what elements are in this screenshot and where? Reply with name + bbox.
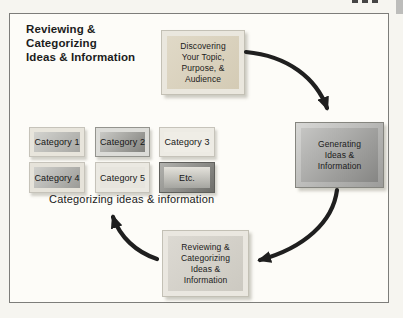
category-label: Category 3 — [164, 132, 210, 152]
figure-title: Reviewing & Categorizing Ideas & Informa… — [26, 22, 135, 64]
page-edge-tab — [396, 0, 403, 14]
figure-title-line: Categorizing — [26, 36, 135, 50]
category-label: Etc. — [164, 167, 210, 188]
category-label: Category 4 — [34, 167, 80, 188]
cropped-page-number — [352, 0, 380, 3]
node-generating-ideas: Generating Ideas & Information — [295, 122, 384, 188]
page-background: { "figure": { "title_lines": ["Reviewing… — [0, 0, 403, 318]
node-reviewing-categorizing: Reviewing & Categorizing Ideas & Informa… — [162, 230, 249, 297]
category-label: Category 2 — [100, 132, 145, 152]
category-box-etc: Etc. — [159, 162, 215, 193]
cropped-page-number-mark — [352, 0, 358, 3]
categories-caption: Categorizing ideas & information — [49, 193, 229, 205]
figure-box: Reviewing & Categorizing Ideas & Informa… — [9, 13, 389, 303]
figure-title-line: Reviewing & — [26, 22, 135, 36]
node-generating-label: Generating Ideas & Information — [301, 128, 378, 182]
figure-title-line: Ideas & Information — [26, 50, 135, 64]
node-reviewing-label: Reviewing & Categorizing Ideas & Informa… — [168, 236, 243, 291]
category-label: Category 5 — [100, 167, 145, 188]
category-box-5: Category 5 — [95, 162, 150, 193]
category-box-1: Category 1 — [29, 127, 85, 157]
category-box-3: Category 3 — [159, 127, 215, 157]
category-box-2: Category 2 — [95, 127, 150, 157]
category-box-4: Category 4 — [29, 162, 85, 193]
node-discovering-label: Discovering Your Topic, Purpose, & Audie… — [167, 36, 239, 89]
node-discovering-topic: Discovering Your Topic, Purpose, & Audie… — [161, 30, 245, 95]
cropped-page-number-mark — [362, 0, 368, 3]
category-label: Category 1 — [34, 132, 80, 152]
cropped-page-number-mark — [372, 0, 378, 3]
